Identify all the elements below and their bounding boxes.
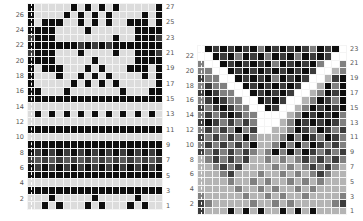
row-number-label: 21: [166, 50, 178, 57]
chart-cell: [235, 90, 241, 96]
chart-cell: [127, 27, 133, 34]
chart-cell: [56, 126, 62, 133]
chart-cell: [295, 119, 301, 125]
chart-cell: [35, 73, 41, 80]
chart-cell: [302, 119, 308, 125]
chart-cell: [120, 187, 126, 194]
chart-cell: [99, 149, 105, 156]
chart-cell: [99, 19, 105, 26]
chart-cell: [265, 112, 271, 118]
chart-cell: [332, 142, 338, 148]
chart-cell: [302, 90, 308, 96]
chart-cell: [56, 157, 62, 164]
chart-cell: [71, 126, 77, 133]
chart-cell: [310, 53, 316, 59]
chart-cell: [220, 149, 226, 155]
chart-cell: [106, 4, 112, 11]
chart-cell: [280, 208, 286, 214]
chart-cell: [64, 12, 70, 19]
chart-cell: [149, 50, 155, 57]
chart-cell: [213, 186, 219, 192]
row-number-label: 8: [182, 157, 194, 164]
chart-cell: [332, 112, 338, 118]
chart-cell: [64, 80, 70, 87]
chart-cell: [295, 142, 301, 148]
chart-cell: [310, 46, 316, 52]
chart-cell: [340, 112, 346, 118]
chart-cell: [92, 50, 98, 57]
chart-cell: [205, 97, 211, 103]
chart-cell: [78, 172, 84, 179]
chart-cell: [205, 61, 211, 67]
chart-cell: [113, 103, 119, 110]
chart-cell: [127, 187, 133, 194]
chart-cell: [85, 35, 91, 42]
chart-cell: [49, 103, 55, 110]
chart-cell: [317, 61, 323, 67]
chart-cell: [156, 141, 162, 148]
chart-cell: [64, 57, 70, 64]
chart-cell: [295, 156, 301, 162]
chart-cell: [258, 171, 264, 177]
chart-cell: [317, 142, 323, 148]
chart-cell: [106, 12, 112, 19]
chart-cell: [205, 208, 211, 214]
chart-cell: [42, 179, 48, 186]
chart-cell: [92, 80, 98, 87]
chart-cell: [85, 149, 91, 156]
chart-cell: [85, 88, 91, 95]
chart-cell: [49, 35, 55, 42]
chart-cell: [49, 42, 55, 49]
chart-cell: [228, 178, 234, 184]
chart-cell: [340, 193, 346, 199]
chart-cell: [64, 126, 70, 133]
chart-cell: [317, 105, 323, 111]
row-number-label: 12: [12, 119, 24, 126]
chart-cell: [205, 75, 211, 81]
chart-cell: [35, 96, 41, 103]
chart-cell: [265, 53, 271, 59]
chart-cell: [272, 105, 278, 111]
chart-cell: [149, 118, 155, 125]
chart-cell: [92, 134, 98, 141]
chart-cell: [149, 96, 155, 103]
chart-cell: [42, 187, 48, 194]
chart-cell: [317, 193, 323, 199]
chart-cell: [228, 90, 234, 96]
chart-cell: [71, 50, 77, 57]
chart-cell: [64, 88, 70, 95]
chart-cell: [258, 186, 264, 192]
chart-cell: [49, 195, 55, 202]
chart-cell: [135, 88, 141, 95]
chart-cell: [78, 96, 84, 103]
chart-cell: [135, 157, 141, 164]
chart-cell: [85, 4, 91, 11]
chart-cell: [35, 111, 41, 118]
chart-cell: [325, 171, 331, 177]
chart-cell: [258, 119, 264, 125]
chart-cell: [149, 111, 155, 118]
chart-cell: [156, 35, 162, 42]
chart-cell: [71, 103, 77, 110]
chart-cell: [78, 27, 84, 34]
chart-cell: [228, 46, 234, 52]
row-number-label: 18: [12, 73, 24, 80]
chart-cell: [228, 200, 234, 206]
chart-cell: [149, 19, 155, 26]
chart-cell: [85, 172, 91, 179]
chart-cell: [92, 27, 98, 34]
chart-cell: [142, 12, 148, 19]
row-number-label: 26: [12, 12, 24, 19]
chart-cell: [340, 90, 346, 96]
chart-cell: [250, 105, 256, 111]
row-number-label: 2: [182, 201, 194, 208]
chart-cell: [250, 46, 256, 52]
chart-cell: [71, 27, 77, 34]
chart-cell: [156, 42, 162, 49]
chart-cell: [149, 35, 155, 42]
chart-cell: [113, 12, 119, 19]
chart-cell: [71, 80, 77, 87]
chart-cell: [71, 149, 77, 156]
chart-cell: [127, 141, 133, 148]
chart-cell: [78, 141, 84, 148]
